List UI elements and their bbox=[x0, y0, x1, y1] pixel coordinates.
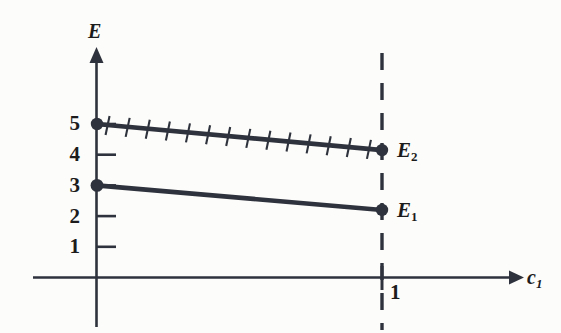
x-axis-label-subscript: 1 bbox=[536, 276, 543, 291]
y-axis-arrowhead bbox=[90, 47, 104, 63]
curve-E2-end-point bbox=[376, 144, 388, 156]
curve-label-E1-base: E bbox=[397, 198, 411, 222]
y-tick-label-5: 5 bbox=[58, 113, 80, 134]
curve-E1-line bbox=[97, 185, 383, 210]
y-tick-label-2: 2 bbox=[58, 206, 80, 227]
y-tick-label-4: 4 bbox=[58, 144, 80, 165]
figure-canvas: E c1 5 4 3 2 1 1 E2 E1 bbox=[0, 0, 561, 333]
curve-label-E1: E1 bbox=[397, 200, 418, 223]
x-axis-label-base: c bbox=[527, 266, 536, 288]
curve-E2-line bbox=[97, 124, 383, 150]
curve-E1-end-point bbox=[376, 204, 388, 216]
y-tick-label-2-text: 2 bbox=[70, 204, 81, 228]
y-tick-label-5-text: 5 bbox=[70, 111, 81, 135]
x-tick-label-1: 1 bbox=[390, 282, 401, 303]
y-tick-label-4-text: 4 bbox=[70, 142, 81, 166]
y-tick-label-1-text: 1 bbox=[70, 234, 81, 258]
y-tick-label-1: 1 bbox=[58, 236, 80, 257]
curve-label-E2: E2 bbox=[397, 140, 418, 163]
y-tick-label-3: 3 bbox=[58, 175, 80, 196]
y-axis-label: E bbox=[88, 21, 101, 41]
x-axis-label: c1 bbox=[527, 267, 542, 290]
x-axis-arrowhead bbox=[509, 271, 524, 285]
y-axis-label-text: E bbox=[88, 20, 101, 42]
plot-svg bbox=[0, 0, 561, 333]
curve-label-E2-base: E bbox=[397, 138, 411, 162]
curve-E2-group bbox=[91, 116, 388, 159]
curve-E1-start-point bbox=[91, 179, 104, 192]
x-tick-label-1-text: 1 bbox=[390, 280, 401, 304]
curve-label-E2-subscript: 2 bbox=[411, 149, 418, 164]
curve-label-E1-subscript: 1 bbox=[411, 209, 418, 224]
curve-E2-start-point bbox=[91, 118, 103, 130]
curve-E1-group bbox=[91, 179, 389, 216]
y-tick-label-3-text: 3 bbox=[70, 173, 81, 197]
